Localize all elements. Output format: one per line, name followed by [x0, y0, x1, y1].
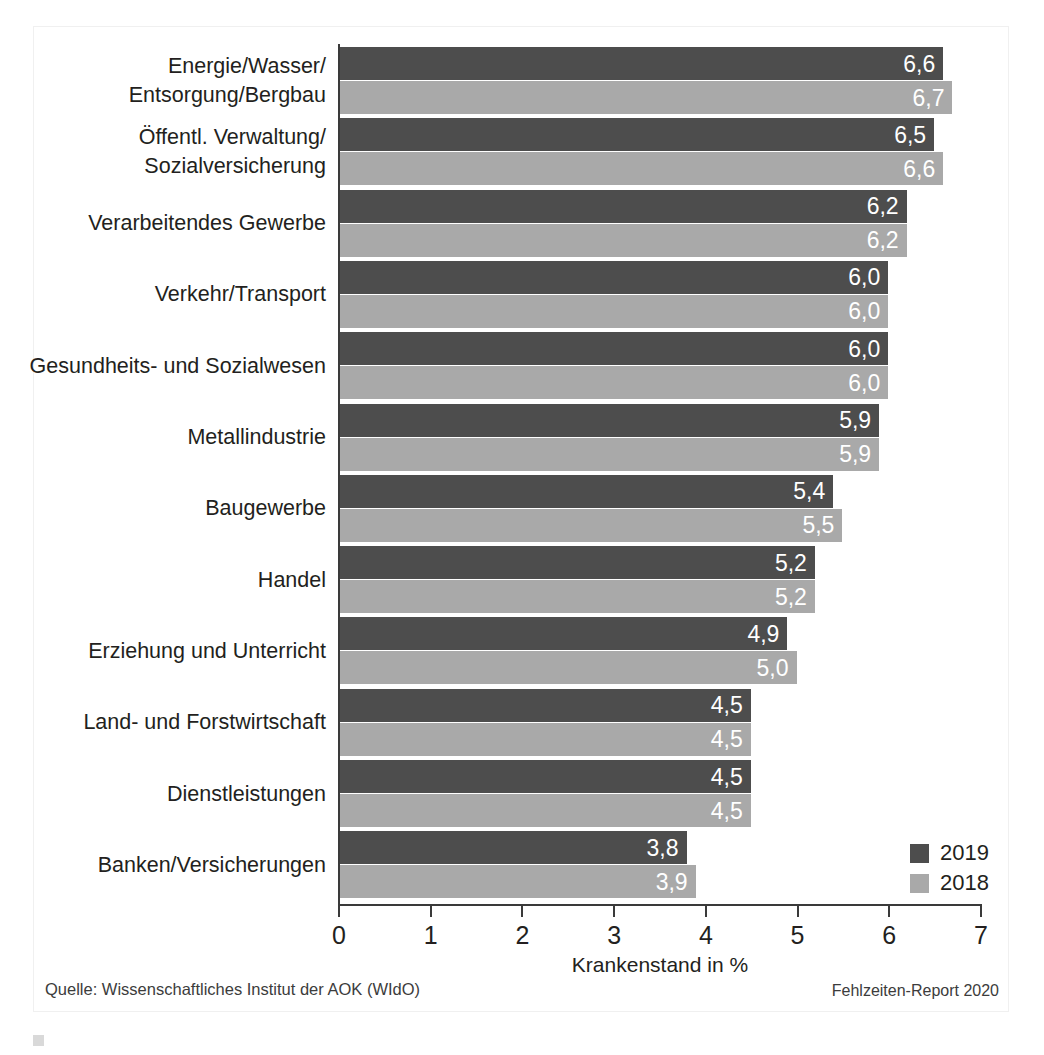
bar-group: 5,25,2	[338, 546, 980, 614]
category-label-line: Öffentl. Verwaltung/	[0, 123, 326, 152]
bar-2018[interactable]: 5,5	[338, 509, 842, 542]
bar-group: 6,06,0	[338, 332, 980, 400]
bar-group: 5,95,9	[338, 404, 980, 472]
bar-value-label: 6,0	[848, 300, 880, 323]
bar-value-label: 6,6	[903, 52, 935, 75]
category-label: Dienstleistungen	[0, 780, 326, 809]
bar-value-label: 6,5	[894, 123, 926, 146]
category-label: Baugewerbe	[0, 494, 326, 523]
category-label: Metallindustrie	[0, 423, 326, 452]
bar-group: 6,06,0	[338, 261, 980, 329]
bar-group: 3,83,9	[338, 831, 980, 899]
category-label: Handel	[0, 566, 326, 595]
x-tick-label: 7	[961, 920, 1001, 950]
category-label-line: Gesundheits- und Sozialwesen	[0, 352, 326, 381]
x-tick-label: 6	[869, 920, 909, 950]
x-tick	[521, 906, 523, 917]
bar-value-label: 3,9	[656, 870, 688, 893]
bar-value-label: 6,2	[867, 195, 899, 218]
bar-2018[interactable]: 3,9	[338, 865, 696, 898]
bar-2018[interactable]: 6,7	[338, 81, 952, 114]
bar-2018[interactable]: 6,2	[338, 224, 907, 257]
category-label-line: Energie/Wasser/	[0, 52, 326, 81]
bar-value-label: 6,0	[848, 337, 880, 360]
x-tick-label: 1	[411, 920, 451, 950]
category-label: Verarbeitendes Gewerbe	[0, 209, 326, 238]
x-tick	[797, 906, 799, 917]
x-tick	[430, 906, 432, 917]
legend-item-2019[interactable]: 2019	[910, 838, 989, 868]
bar-2018[interactable]: 6,0	[338, 366, 888, 399]
bar-2019[interactable]: 6,5	[338, 118, 934, 151]
bar-2019[interactable]: 5,4	[338, 475, 833, 508]
x-tick	[613, 906, 615, 917]
plot-area: 6,66,7Energie/Wasser/Entsorgung/Bergbau6…	[338, 47, 980, 902]
category-label-line: Dienstleistungen	[0, 780, 326, 809]
category-label: Verkehr/Transport	[0, 280, 326, 309]
category-label: Banken/Versicherungen	[0, 851, 326, 880]
bar-2018[interactable]: 5,0	[338, 651, 797, 684]
legend-label-2019: 2019	[940, 840, 989, 866]
category-label-line: Metallindustrie	[0, 423, 326, 452]
source-note: Quelle: Wissenschaftliches Institut der …	[45, 980, 420, 999]
x-axis-title: Krankenstand in %	[338, 953, 982, 977]
x-axis-line	[338, 904, 982, 906]
category-label: Land- und Forstwirtschaft	[0, 708, 326, 737]
bar-2019[interactable]: 4,9	[338, 617, 787, 650]
x-tick	[888, 906, 890, 917]
bar-2019[interactable]: 5,9	[338, 404, 879, 437]
legend-item-2018[interactable]: 2018	[910, 868, 989, 898]
x-tick-label: 4	[686, 920, 726, 950]
category-label-line: Verarbeitendes Gewerbe	[0, 209, 326, 238]
category-label-line: Erziehung und Unterricht	[0, 637, 326, 666]
bar-2018[interactable]: 5,2	[338, 580, 815, 613]
bar-value-label: 5,4	[793, 480, 825, 503]
x-tick-label: 2	[502, 920, 542, 950]
bar-value-label: 4,5	[711, 765, 743, 788]
bar-group: 5,45,5	[338, 475, 980, 543]
x-tick	[980, 906, 982, 917]
bar-group: 6,66,7	[338, 47, 980, 115]
category-label: Gesundheits- und Sozialwesen	[0, 352, 326, 381]
legend-swatch-2019-icon	[910, 844, 929, 863]
bar-2019[interactable]: 4,5	[338, 760, 751, 793]
x-tick-label: 3	[594, 920, 634, 950]
bar-2019[interactable]: 6,0	[338, 332, 888, 365]
bar-2019[interactable]: 6,0	[338, 261, 888, 294]
legend-swatch-2018-icon	[910, 874, 929, 893]
category-label: Energie/Wasser/Entsorgung/Bergbau	[0, 52, 326, 110]
bar-value-label: 6,7	[913, 86, 945, 109]
bar-2018[interactable]: 4,5	[338, 723, 751, 756]
bar-value-label: 4,9	[747, 622, 779, 645]
bar-group: 4,54,5	[338, 760, 980, 828]
bar-group: 4,95,0	[338, 617, 980, 685]
category-label-line: Banken/Versicherungen	[0, 851, 326, 880]
figure-caption	[33, 1032, 1013, 1049]
bar-value-label: 5,2	[775, 585, 807, 608]
bar-2019[interactable]: 6,6	[338, 47, 943, 80]
bar-value-label: 5,0	[757, 656, 789, 679]
bar-2018[interactable]: 6,0	[338, 295, 888, 328]
category-label-line: Sozialversicherung	[0, 152, 326, 181]
bar-value-label: 4,5	[711, 728, 743, 751]
bar-2018[interactable]: 4,5	[338, 794, 751, 827]
bar-value-label: 5,2	[775, 551, 807, 574]
y-axis-line	[338, 44, 340, 906]
bar-group: 6,56,6	[338, 118, 980, 186]
bar-2019[interactable]: 4,5	[338, 689, 751, 722]
bar-2019[interactable]: 5,2	[338, 546, 815, 579]
category-label: Öffentl. Verwaltung/Sozialversicherung	[0, 123, 326, 181]
bar-2019[interactable]: 6,2	[338, 190, 907, 223]
bar-value-label: 5,5	[802, 514, 834, 537]
bar-value-label: 6,0	[848, 371, 880, 394]
figure-container: 6,66,7Energie/Wasser/Entsorgung/Bergbau6…	[0, 0, 1044, 1055]
bar-value-label: 6,0	[848, 266, 880, 289]
bar-value-label: 4,5	[711, 799, 743, 822]
bar-2018[interactable]: 5,9	[338, 438, 879, 471]
x-tick-label: 5	[778, 920, 818, 950]
bar-2018[interactable]: 6,6	[338, 152, 943, 185]
bar-2019[interactable]: 3,8	[338, 831, 687, 864]
bar-value-label: 3,8	[647, 836, 679, 859]
category-label-line: Verkehr/Transport	[0, 280, 326, 309]
caption-marker-icon	[33, 1035, 44, 1046]
